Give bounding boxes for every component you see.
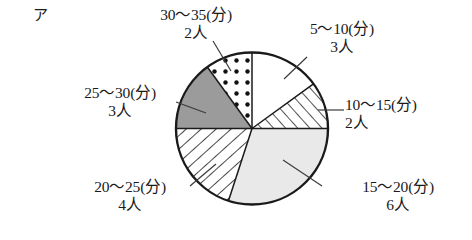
callout-25-30-range: 25～30(分) (56, 84, 184, 102)
callout-15-20-range: 15～20(分) (330, 178, 466, 196)
callout-30-35-range: 30～35(分) (120, 6, 272, 24)
callout-20-25-range: 20～25(分) (62, 178, 198, 196)
callout-15-20: 15～20(分) 6人 (330, 178, 466, 214)
callout-5-10-range: 5～10(分) (282, 20, 402, 38)
callout-30-35-count: 2人 (120, 24, 272, 42)
callout-30-35: 30～35(分) 2人 (120, 6, 272, 42)
callout-20-25: 20～25(分) 4人 (62, 178, 198, 214)
callout-15-20-count: 6人 (330, 196, 466, 214)
callout-25-30: 25～30(分) 3人 (56, 84, 184, 120)
figure-container: ア (0, 0, 472, 240)
callout-10-15: 10～15(分) 2人 (345, 96, 469, 132)
callout-5-10-count: 3人 (282, 38, 402, 56)
callout-10-15-count: 2人 (345, 114, 469, 132)
callout-5-10: 5～10(分) 3人 (282, 20, 402, 56)
callout-20-25-count: 4人 (62, 196, 198, 214)
callout-10-15-range: 10～15(分) (345, 96, 469, 114)
callout-25-30-count: 3人 (56, 102, 184, 120)
